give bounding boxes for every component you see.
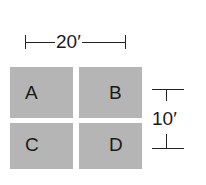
room-label: A: [25, 83, 38, 103]
dimension-cap-bottom: [152, 148, 184, 149]
width-dimension-label: 20′: [55, 30, 82, 54]
room-c: C: [10, 123, 73, 169]
width-dimension: 20′: [25, 30, 126, 54]
dimension-cap-top: [152, 89, 184, 90]
height-dimension-label: 10′: [152, 108, 177, 130]
room-label: D: [109, 135, 123, 155]
room-label: C: [25, 135, 39, 155]
room-b: B: [79, 67, 142, 118]
room-a: A: [10, 67, 73, 118]
room-d: D: [79, 123, 142, 169]
dimension-tick-right: [125, 35, 126, 49]
dimension-stem-top: [166, 89, 167, 101]
height-dimension: 10′: [150, 88, 186, 150]
dimension-stem-bottom: [166, 134, 167, 148]
room-label: B: [109, 83, 122, 103]
